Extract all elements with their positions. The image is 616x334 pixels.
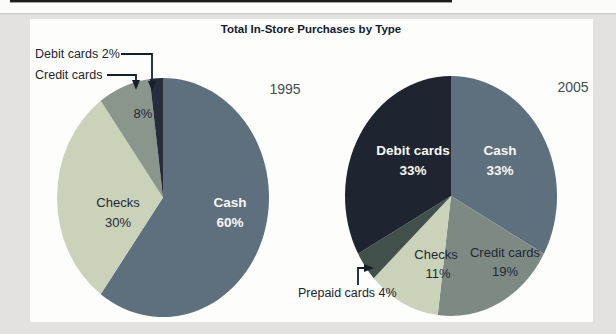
slice-label-2005-cash: Cash	[483, 143, 516, 158]
callout-label-prepaid-cards: Prepaid cards 4%	[298, 286, 397, 300]
pie-2005	[345, 76, 557, 316]
slice-pct-1995-cash: 60%	[216, 215, 243, 230]
slice-pct-2005-debit-cards: 33%	[399, 163, 426, 178]
figure-page: Total In-Store Purchases by Type 1995 20…	[0, 0, 616, 334]
slice-pct-1995-credit-cards: 8%	[134, 106, 153, 121]
slice-label-2005-checks: Checks	[414, 247, 458, 262]
top-accent-line	[10, 0, 452, 2]
slice-pct-1995-checks: 30%	[105, 215, 131, 230]
slice-pct-2005-cash: 33%	[486, 163, 513, 178]
slice-label-2005-debit-cards: Debit cards	[376, 143, 450, 158]
top-rule-line	[0, 13, 616, 14]
slice-label-1995-cash: Cash	[213, 195, 246, 210]
chart-title: Total In-Store Purchases by Type	[221, 23, 401, 35]
slice-label-1995-checks: Checks	[96, 195, 140, 210]
slice-pct-2005-credit-cards: 19%	[492, 264, 518, 279]
year-label-1995: 1995	[269, 81, 300, 97]
callout-label-debit-cards: Debit cards 2%	[35, 47, 120, 61]
callout-label-credit-cards: Credit cards	[35, 68, 102, 82]
slice-pct-2005-checks: 11%	[425, 266, 450, 281]
chart-canvas: Total In-Store Purchases by Type 1995 20…	[0, 0, 616, 334]
slice-label-2005-credit-cards: Credit cards	[470, 245, 541, 260]
year-label-2005: 2005	[557, 79, 588, 95]
